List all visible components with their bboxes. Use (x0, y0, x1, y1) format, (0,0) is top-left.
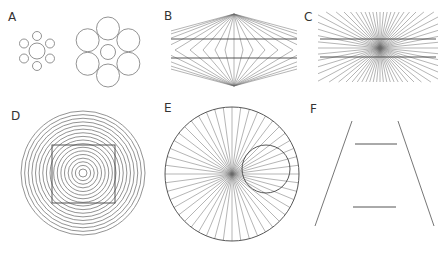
radial-circle-figure (165, 107, 299, 241)
panel-d: D (11, 109, 145, 235)
panel-a: A (8, 10, 140, 87)
radial-line (232, 174, 279, 221)
illusion-figure: A B C D E F (0, 0, 443, 264)
concentric-ring (32, 122, 134, 224)
fan-line (234, 14, 368, 86)
radial-line (199, 116, 233, 174)
panel-e: E (164, 101, 299, 241)
fan-line (203, 14, 234, 86)
fan-line (234, 14, 328, 86)
radial-line (232, 127, 279, 174)
ray-line (380, 48, 408, 82)
center-circle (101, 45, 116, 60)
concentric-ring (54, 144, 113, 203)
concentric-rings-square (21, 111, 145, 235)
radial-line (232, 174, 290, 208)
radial-line (215, 174, 232, 239)
surround-circle (45, 54, 54, 63)
inner-circle (242, 145, 290, 193)
surround-circle (45, 39, 54, 48)
fan-line (234, 14, 265, 86)
panel-b-label: B (164, 9, 172, 23)
surround-circle (97, 17, 120, 40)
concentric-ring (61, 151, 105, 195)
radial-line (232, 174, 297, 191)
ray-line (380, 12, 424, 48)
panel-c-label: C (304, 10, 312, 24)
radial-line (185, 127, 232, 174)
surround-circle (97, 64, 120, 87)
fan-line (234, 14, 243, 86)
radial-line (215, 109, 232, 174)
hering-fan-lines (100, 14, 368, 86)
fan-line (234, 14, 348, 86)
radial-line (232, 174, 266, 232)
panel-c: C (304, 10, 438, 82)
panel-e-label: E (164, 101, 172, 115)
surround-circle (20, 54, 29, 63)
radial-line (167, 157, 232, 174)
fan-line (120, 14, 234, 86)
fan-line (100, 14, 234, 86)
wundt-ray-fan (318, 12, 438, 82)
radial-line (167, 174, 232, 191)
panel-d-label: D (11, 109, 20, 123)
converging-rail (315, 121, 352, 226)
concentric-ring (28, 118, 138, 228)
fan-group (100, 14, 368, 86)
fan-line (140, 14, 234, 86)
ponzo-lines (315, 121, 434, 226)
surround-circle (33, 32, 42, 41)
fan-line (160, 14, 234, 86)
ray-line (339, 48, 380, 82)
panel-b: B (100, 9, 368, 86)
converging-rail (398, 121, 434, 226)
radial-line (232, 116, 266, 174)
radial-line (199, 174, 233, 232)
ray-line (336, 12, 380, 48)
ray-line (352, 48, 380, 82)
radial-line (185, 174, 232, 221)
concentric-ring (57, 147, 109, 199)
concentric-ring (68, 158, 98, 188)
concentric-ring (75, 165, 90, 180)
center-circle (29, 43, 45, 59)
concentric-ring (65, 155, 102, 192)
ebbinghaus-circles (20, 17, 140, 87)
surround-circle (33, 62, 42, 71)
panel-f-label: F (310, 102, 317, 116)
fan-line (225, 14, 234, 86)
surround-circle (76, 52, 99, 75)
radial-line (174, 174, 232, 208)
surround-circle (117, 29, 140, 52)
radial-line (174, 141, 232, 175)
radial-line (232, 109, 249, 174)
surround-circle (20, 39, 29, 48)
concentric-ring (21, 111, 145, 235)
fan-line (234, 14, 308, 86)
surround-circle (117, 52, 140, 75)
concentric-ring (79, 169, 87, 177)
surround-circle (76, 29, 99, 52)
ray-line (380, 48, 421, 82)
panel-f: F (310, 102, 434, 226)
concentric-ring (50, 140, 116, 206)
ray-line (380, 12, 410, 48)
panel-a-label: A (8, 10, 17, 24)
ray-line (350, 12, 380, 48)
concentric-ring (25, 115, 142, 232)
